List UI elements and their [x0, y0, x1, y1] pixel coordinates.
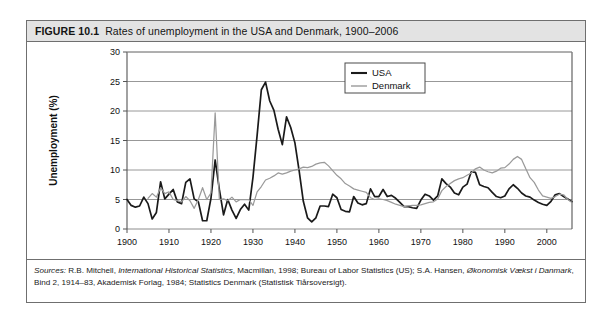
sources-text-a: R.B. Mitchell,	[66, 266, 118, 275]
x-tick-label: 1910	[159, 237, 179, 247]
figure-panel: FIGURE 10.1 Rates of unemployment in the…	[26, 20, 586, 303]
x-tick-label: 1980	[453, 237, 473, 247]
x-tick-label: 1920	[201, 237, 221, 247]
x-tick-label: 2000	[537, 237, 557, 247]
y-tick-label: 10	[110, 165, 120, 175]
figure-caption-bar: FIGURE 10.1 Rates of unemployment in the…	[27, 21, 585, 42]
x-tick-label: 1990	[495, 237, 515, 247]
legend-label-usa: USA	[372, 67, 392, 78]
sources-text-b: , Macmillan, 1998; Bureau of Labor Stati…	[233, 266, 467, 275]
x-tick-label: 1970	[411, 237, 431, 247]
chart-plot-area: 0510152025301900191019201930194019501960…	[27, 42, 585, 259]
series-line-usa	[127, 82, 572, 222]
y-tick-label: 5	[115, 195, 120, 205]
y-tick-label: 25	[110, 77, 120, 87]
sources-label: Sources:	[34, 266, 66, 275]
x-tick-label: 1900	[117, 237, 137, 247]
y-tick-label: 15	[110, 136, 120, 146]
figure-caption-text: Rates of unemployment in the USA and Den…	[105, 25, 398, 37]
y-tick-label: 30	[110, 47, 120, 57]
unemployment-line-chart: 0510152025301900191019201930194019501960…	[27, 42, 585, 259]
y-tick-label: 0	[115, 224, 120, 234]
x-tick-label: 1960	[369, 237, 389, 247]
y-tick-label: 20	[110, 106, 120, 116]
sources-italic-title-1: International Historical Statistics	[118, 266, 233, 275]
sources-text-c: ,	[572, 266, 574, 275]
sources-italic-title-2: Økonomisk Vækst i Danmark	[467, 266, 572, 275]
x-tick-label: 1940	[285, 237, 305, 247]
x-tick-label: 1930	[243, 237, 263, 247]
figure-number: FIGURE 10.1	[35, 25, 99, 37]
legend-label-denmark: Denmark	[372, 80, 411, 91]
y-axis-title: Unemployment (%)	[48, 95, 59, 186]
sources-line-2: Bind 2, 1914–83, Akademisk Forlag, 1984;…	[34, 278, 347, 287]
x-tick-label: 1950	[327, 237, 347, 247]
figure-sources: Sources: R.B. Mitchell, International Hi…	[27, 259, 585, 292]
